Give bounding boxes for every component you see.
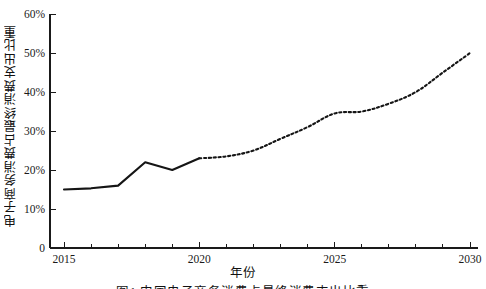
y-tick-label: 40% [24,86,46,98]
series-forecast-line [199,53,470,158]
x-axis-title-label: 年份 [0,262,486,281]
y-tick-marks [50,14,56,248]
y-tick-label: 50% [24,47,46,59]
axis-group [50,14,478,248]
y-axis-title: 电子商务消费占最终消费支出比重 [0,0,20,250]
y-tick-label: 0 [39,242,45,254]
y-tick-label: 30% [24,125,46,137]
y-tick-label: 60% [24,8,46,20]
y-tick-labels: 010%20%30%40%50%60% [24,8,46,254]
line-chart-plot: 010%20%30%40%50%60% 2015202020252030 [0,0,486,289]
chart-figure: 010%20%30%40%50%60% 2015202020252030 电子商… [0,0,486,289]
series-historical-line [64,158,199,189]
figure-caption: 图1 中国电子商务消费占最终消费支出比重 [0,281,486,289]
x-tick-marks [64,242,470,248]
y-tick-label: 10% [24,203,46,215]
y-tick-label: 20% [24,164,46,176]
y-axis-title-label: 电子商务消费占最终消费支出比重 [1,24,20,227]
